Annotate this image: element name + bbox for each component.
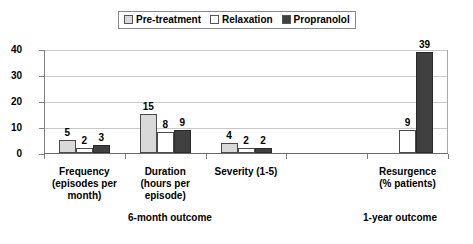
y-axis-tick-label: 10 (0, 123, 22, 133)
category-label-line: (hours per (115, 178, 215, 190)
bar (76, 148, 93, 153)
category-label: Resurgence(% patients) (358, 166, 458, 190)
legend-label-relaxation: Relaxation (222, 14, 273, 25)
legend-swatch-relaxation (210, 15, 219, 24)
category-label-line: (% patients) (358, 178, 458, 190)
bar (238, 148, 255, 153)
bar (157, 132, 174, 153)
x-axis-tick-mark (125, 154, 126, 159)
legend-swatch-propranolol (282, 15, 291, 24)
section-label-6-month: 6-month outcome (60, 212, 280, 224)
x-axis-tick-mark (206, 154, 207, 159)
bar-value-label: 3 (89, 133, 113, 143)
gridline (44, 102, 448, 103)
legend-entry-pre-treatment: Pre-treatment (124, 14, 201, 25)
y-axis-tick-label: 0 (0, 149, 22, 159)
x-axis-tick-mark (367, 154, 368, 159)
x-axis-tick-mark (44, 154, 45, 159)
bar (416, 52, 433, 153)
plot-right-border (447, 50, 448, 154)
legend-entry-relaxation: Relaxation (210, 14, 273, 25)
plot-area: 5231589422939 (44, 50, 448, 154)
x-axis-tick-mark (286, 154, 287, 159)
y-axis-tick-label: 20 (0, 97, 22, 107)
y-axis-tick-label: 30 (0, 71, 22, 81)
gridline (44, 76, 448, 77)
bar (255, 148, 272, 153)
gridline (44, 50, 448, 51)
bar-value-label: 2 (251, 136, 275, 146)
category-label-line: Severity (1-5) (196, 166, 296, 178)
legend-entry-propranolol: Propranolol (282, 14, 350, 25)
category-label: Severity (1-5) (196, 166, 296, 178)
x-axis-tick-mark (448, 154, 449, 159)
legend-label-pre-treatment: Pre-treatment (136, 14, 201, 25)
y-axis-tick-label: 40 (0, 45, 22, 55)
gridline (44, 128, 448, 129)
y-axis-line (44, 50, 45, 154)
bar (93, 145, 110, 153)
bar (399, 130, 416, 153)
category-label-line: episode) (115, 190, 215, 202)
category-label-line: Resurgence (358, 166, 458, 178)
bar-value-label: 15 (136, 102, 160, 112)
section-label-1-year: 1-year outcome (340, 212, 460, 224)
legend-swatch-pre-treatment (124, 15, 133, 24)
bar-value-label: 39 (413, 40, 437, 50)
bar (174, 130, 191, 153)
bar-value-label: 9 (170, 118, 194, 128)
x-axis-line (44, 153, 448, 154)
legend-label-propranolol: Propranolol (294, 14, 350, 25)
chart-legend: Pre-treatment Relaxation Propranolol (118, 11, 356, 29)
